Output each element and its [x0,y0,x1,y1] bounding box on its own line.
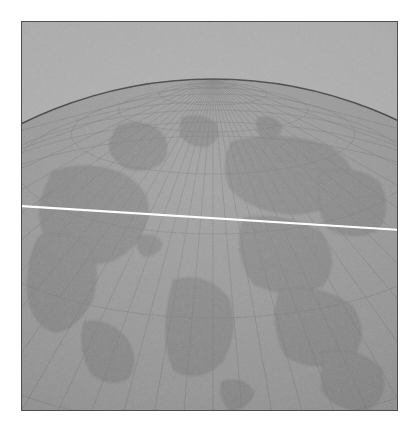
figure-page: Globe — azimuthal view of the northern h… [0,0,418,435]
figure-frame [21,21,398,411]
globe-illustration [22,22,397,410]
paper-texture [22,22,397,410]
